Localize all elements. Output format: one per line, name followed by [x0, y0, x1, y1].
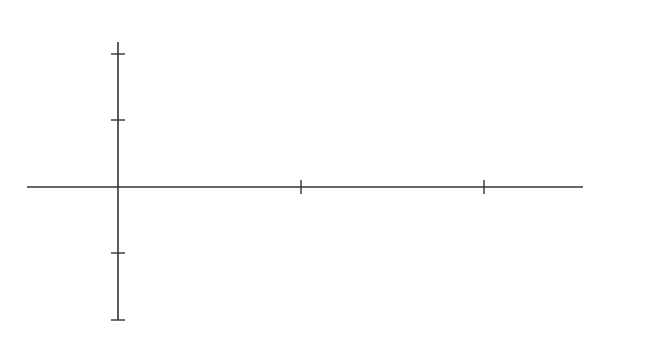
chart-figure — [0, 0, 665, 345]
